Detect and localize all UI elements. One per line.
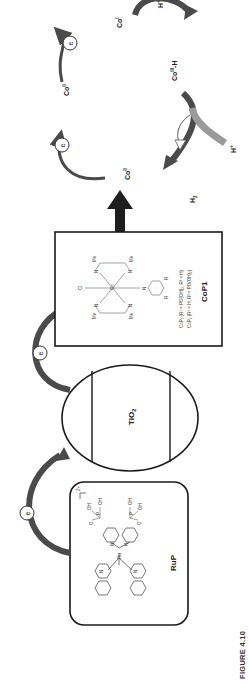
electron-transfer-rup-to-tio2: e bbox=[20, 447, 70, 553]
svg-text:N: N bbox=[99, 570, 104, 573]
svg-text:N: N bbox=[142, 287, 147, 290]
svg-text:Cl: Cl bbox=[78, 286, 83, 290]
svg-text:O: O bbox=[89, 521, 94, 525]
tio2-label: TiO2 bbox=[127, 409, 137, 425]
svg-text:Me: Me bbox=[92, 255, 97, 262]
svg-text:N: N bbox=[94, 270, 99, 273]
cop1-panel: Co Cl N N N N N Me Me Me Me R R CoP₁ (R¹… bbox=[55, 232, 222, 346]
svg-text:N: N bbox=[124, 543, 129, 546]
svg-text:O: O bbox=[137, 521, 142, 525]
svg-text:Co: Co bbox=[110, 284, 115, 290]
rup-panel: 2+ P P OH OH OH OH O O bbox=[70, 482, 188, 625]
figure-caption: FIGURE 4.10 bbox=[238, 631, 247, 679]
label-co-i: CoI bbox=[115, 17, 123, 28]
svg-text:Me: Me bbox=[129, 312, 134, 319]
figure-canvas: 2+ P P OH OH OH OH O O bbox=[0, 0, 249, 683]
svg-text:OH: OH bbox=[98, 498, 103, 505]
tio2-panel: TiO2 bbox=[62, 365, 198, 471]
svg-text:P: P bbox=[129, 512, 134, 515]
svg-text:Me: Me bbox=[92, 312, 97, 319]
rup-metal: Ru bbox=[117, 553, 122, 559]
label-co-ii-bottom: CoII bbox=[123, 168, 131, 180]
svg-text:N: N bbox=[128, 270, 133, 273]
cop1-legend-line-1: CoP₁ (R¹ = PO(OH)₂, R² = H) bbox=[179, 269, 184, 328]
label-hydrogen: H2 bbox=[189, 195, 198, 203]
cop1-label: CoP1 bbox=[200, 281, 209, 302]
svg-text:R: R bbox=[164, 276, 169, 280]
electron-symbol: e bbox=[24, 512, 31, 516]
svg-text:OH: OH bbox=[138, 503, 143, 510]
svg-text:OH: OH bbox=[128, 498, 133, 505]
main-arrow bbox=[107, 190, 133, 232]
svg-text:N: N bbox=[110, 543, 115, 546]
svg-text:P: P bbox=[96, 512, 101, 515]
svg-text:N: N bbox=[94, 304, 99, 307]
svg-text:OH: OH bbox=[87, 503, 92, 510]
svg-text:e: e bbox=[37, 352, 44, 356]
svg-text:N: N bbox=[128, 304, 133, 307]
label-co-iii-h: CoIII-H bbox=[170, 61, 178, 82]
catalytic-cycle: e e CoII CoI CoIII-H CoII H+ H+ H2 bbox=[55, 0, 237, 203]
svg-text:e: e bbox=[67, 42, 74, 46]
label-proton-2: H+ bbox=[229, 145, 237, 153]
svg-text:e: e bbox=[59, 144, 66, 148]
rup-label: RuP bbox=[169, 554, 178, 571]
svg-text:Me: Me bbox=[129, 255, 134, 262]
label-co-ii-top: CoII bbox=[62, 84, 70, 96]
cop1-legend-line-2: CoP₂ (R¹ = H, R² = PO(OH)₂) bbox=[187, 269, 192, 328]
rup-charge: 2+ bbox=[76, 485, 81, 491]
svg-text:R: R bbox=[164, 295, 169, 299]
svg-text:N: N bbox=[133, 570, 138, 573]
